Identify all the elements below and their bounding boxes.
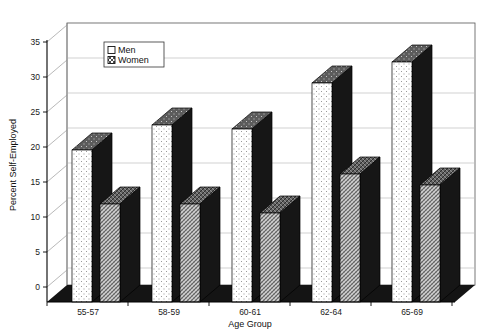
plot-left-wall xyxy=(47,23,67,302)
legend[interactable]: Men Women xyxy=(104,42,164,67)
y-tick-label: 0 xyxy=(35,282,40,292)
bar-women-58-59 xyxy=(180,187,220,302)
bar-chart-svg: 35 30 25 20 15 10 5 0 55-57 58-59 60-61 … xyxy=(0,0,483,329)
bar-women-60-61 xyxy=(260,196,300,302)
legend-swatch-men xyxy=(108,47,115,54)
x-axis-title: Age Group xyxy=(228,319,272,329)
x-axis-ticks xyxy=(47,302,452,306)
y-tick-label: 20 xyxy=(31,142,41,152)
x-tick-label: 60-61 xyxy=(239,307,261,317)
chart-container: 35 30 25 20 15 10 5 0 55-57 58-59 60-61 … xyxy=(0,0,483,329)
x-tick-label: 58-59 xyxy=(158,307,180,317)
legend-label-men: Men xyxy=(118,45,136,55)
x-tick-label: 62-64 xyxy=(320,307,342,317)
x-tick-label: 65-69 xyxy=(401,307,423,317)
y-tick-label: 10 xyxy=(31,212,41,222)
y-tick-label: 15 xyxy=(31,177,41,187)
y-tick-label: 35 xyxy=(31,37,41,47)
x-tick-labels: 55-57 58-59 60-61 62-64 65-69 xyxy=(77,307,423,317)
bar-women-62-64 xyxy=(340,157,380,302)
y-axis-ticks xyxy=(43,42,47,287)
legend-label-women: Women xyxy=(118,55,149,65)
y-tick-label: 30 xyxy=(31,72,41,82)
y-tick-label: 5 xyxy=(35,247,40,257)
x-tick-label: 55-57 xyxy=(77,307,99,317)
legend-swatch-women xyxy=(108,57,115,64)
bar-women-65-69 xyxy=(420,168,460,302)
y-axis-title: Percent Self-Employed xyxy=(8,119,18,211)
y-tick-label: 25 xyxy=(31,107,41,117)
bar-women-55-57 xyxy=(100,187,140,302)
y-tick-labels: 35 30 25 20 15 10 5 0 xyxy=(31,37,41,292)
